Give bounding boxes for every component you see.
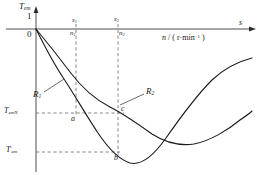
Tem-prime-subscript: em (12, 149, 18, 154)
tick-label-s2: s2 (114, 16, 119, 23)
torque-level-label-TemN: TemN (4, 107, 18, 116)
x-axis-label-unit: min (182, 33, 194, 42)
x-axis-label-close: ) (200, 33, 205, 42)
point-label-a: a (71, 115, 75, 123)
tick-label-s1: s1 (72, 17, 77, 24)
R2-subscript: 2 (152, 90, 155, 96)
x-axis-arrow (249, 27, 256, 32)
plot-canvas (0, 0, 263, 175)
x-axis-label-rest: / ( r (166, 33, 180, 42)
y-axis-arrow (34, 6, 39, 13)
tick-label-n2: n2 (119, 30, 125, 37)
x-axis-label: n / ( r·min−1 ) (162, 34, 205, 42)
tick-n2-subscript: 2 (123, 32, 125, 37)
tick-label-n1: n1 (70, 30, 76, 37)
TemN-subscript: emN (8, 110, 17, 115)
curve-label-R1: R1 (33, 90, 41, 100)
origin-top-label: 1 (27, 12, 32, 21)
point-label-c: c (121, 105, 125, 113)
point-label-b: b (114, 154, 118, 162)
origin-bottom-label: 0 (27, 30, 32, 39)
axis-group (6, 6, 256, 172)
slip-axis-label: s (239, 19, 242, 27)
R1-subscript: 1 (39, 93, 42, 99)
curve-R1 (36, 29, 252, 163)
tick-s2-subscript: 2 (117, 18, 119, 23)
dashed-guides (36, 24, 124, 156)
tick-n1-subscript: 1 (74, 32, 76, 37)
torque-level-label-Tem-prime: T′em (6, 146, 17, 155)
curve-label-R2: R2 (146, 87, 154, 97)
tick-s1-subscript: 1 (75, 19, 77, 24)
torque-speed-figure: Tem 1 0 s n / ( r·min−1 ) s1 s2 n1 n2 Te… (0, 0, 263, 175)
leader-R1 (44, 79, 64, 92)
